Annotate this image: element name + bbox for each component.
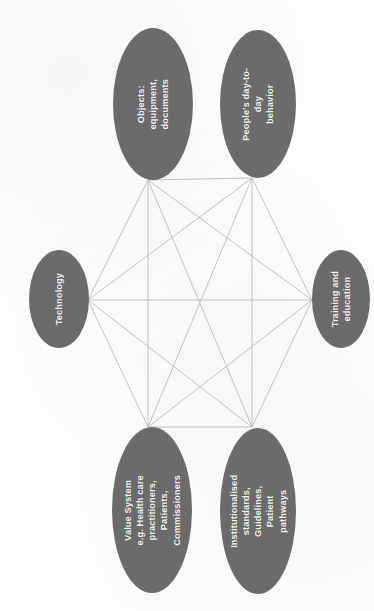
diagram-canvas: Objects: equipment, documentsPeople's da…	[0, 0, 374, 611]
edge-training-standards	[252, 300, 312, 427]
node-label-training: Training and education	[329, 270, 353, 328]
node-label-technology: Technology	[52, 269, 64, 329]
node-technology[interactable]: Technology	[29, 250, 89, 348]
node-objects[interactable]: Objects: equipment, documents	[113, 28, 193, 180]
node-label-behavior: People's day-to-day behavior	[239, 66, 275, 142]
edge-objects-behavior	[148, 178, 252, 180]
edge-behavior-training	[252, 178, 312, 300]
edge-technology-value-system	[88, 300, 148, 427]
node-label-objects: Objects: equipment, documents	[134, 64, 170, 144]
node-training[interactable]: Training and education	[312, 250, 370, 348]
node-standards[interactable]: Institutionalised standards, Guidelines,…	[220, 428, 296, 594]
node-label-value-system: Value System e.g. Health care practition…	[122, 470, 183, 550]
node-label-standards: Institutionalised standards, Guidelines,…	[227, 473, 288, 549]
node-behavior[interactable]: People's day-to-day behavior	[220, 30, 296, 178]
edge-objects-technology	[88, 180, 148, 300]
edge-objects-training	[148, 180, 312, 300]
edge-training-value-system	[148, 300, 312, 427]
edge-technology-standards	[88, 300, 252, 427]
node-value-system[interactable]: Value System e.g. Health care practition…	[112, 427, 192, 593]
